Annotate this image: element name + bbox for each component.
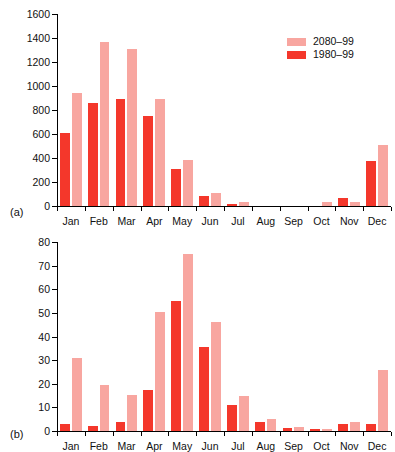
bar-feb-future	[100, 42, 110, 206]
x-tick-mark	[113, 432, 114, 436]
bar-jul-future	[239, 202, 249, 206]
x-tick-mark	[113, 207, 114, 211]
legend-label-1980-99: 1980–99	[313, 49, 354, 60]
y-tick-mark	[52, 158, 57, 159]
y-tick-label: 70	[38, 260, 50, 271]
x-tick-label: Jul	[231, 216, 244, 227]
x-tick-label: Jun	[202, 441, 219, 452]
legend-swatch-2080-99-icon	[287, 38, 306, 46]
bar-feb-past	[88, 103, 98, 206]
legend-swatch-1980-99-icon	[287, 51, 306, 59]
x-tick-label: Apr	[146, 441, 162, 452]
x-tick-mark	[391, 432, 392, 436]
x-tick-label: May	[172, 441, 192, 452]
y-tick-label: 600	[32, 129, 50, 140]
x-tick-label: Aug	[256, 216, 275, 227]
panel-b-plot-area: 01020304050607080 JanFebMarAprMayJunJulA…	[57, 242, 391, 432]
panel-b-y-axis-line	[57, 242, 58, 432]
bar-may-past	[171, 301, 181, 431]
x-tick-label: Nov	[340, 441, 359, 452]
x-tick-mark	[168, 207, 169, 211]
bar-mar-future	[127, 395, 137, 431]
bar-dec-future	[378, 145, 388, 206]
x-tick-mark	[308, 207, 309, 211]
bar-jan-future	[72, 358, 82, 431]
bar-oct-future	[322, 429, 332, 431]
panel-b-tag: (b)	[10, 428, 23, 440]
x-tick-label: Jul	[231, 441, 244, 452]
legend-item-future: 2080–99	[287, 35, 354, 48]
y-tick-mark	[52, 134, 57, 135]
y-tick-label: 30	[38, 355, 50, 366]
x-tick-mark	[57, 432, 58, 436]
x-tick-label: Jan	[62, 441, 79, 452]
x-tick-mark	[363, 207, 364, 211]
bar-jun-future	[211, 193, 221, 206]
y-tick-mark	[52, 182, 57, 183]
bar-may-future	[183, 160, 193, 206]
bar-apr-future	[155, 99, 165, 206]
x-tick-label: Apr	[146, 216, 162, 227]
bar-jan-future	[72, 93, 82, 206]
y-tick-mark	[52, 313, 57, 314]
bar-aug-future	[267, 419, 277, 431]
x-tick-mark	[391, 207, 392, 211]
panel-a-plot-area: 02004006008001000120014001600 JanFebMarA…	[57, 14, 391, 207]
y-tick-label: 1600	[27, 9, 50, 20]
bar-apr-past	[143, 116, 153, 206]
y-tick-label: 20	[38, 379, 50, 390]
y-tick-label: 60	[38, 284, 50, 295]
y-tick-mark	[52, 14, 57, 15]
x-tick-mark	[363, 432, 364, 436]
x-tick-mark	[252, 207, 253, 211]
x-tick-mark	[168, 432, 169, 436]
x-tick-mark	[335, 432, 336, 436]
y-tick-mark	[52, 86, 57, 87]
x-tick-label: Mar	[118, 216, 136, 227]
bar-aug-past	[255, 422, 265, 431]
x-tick-label: Jun	[202, 216, 219, 227]
panel-b-discharge: (b) Discharge (m3/s) 01020304050607080 J…	[0, 228, 395, 445]
bar-sep-past	[283, 428, 293, 431]
bar-mar-future	[127, 49, 137, 206]
x-tick-mark	[224, 432, 225, 436]
y-tick-label: 200	[32, 177, 50, 188]
y-tick-label: 1000	[27, 81, 50, 92]
bar-feb-future	[100, 385, 110, 431]
y-tick-label: 50	[38, 308, 50, 319]
bar-feb-past	[88, 426, 98, 431]
x-tick-mark	[141, 207, 142, 211]
x-tick-label: May	[172, 216, 192, 227]
x-tick-mark	[57, 207, 58, 211]
bar-dec-past	[366, 424, 376, 431]
x-tick-label: Oct	[313, 441, 329, 452]
y-tick-mark	[52, 384, 57, 385]
x-tick-mark	[196, 207, 197, 211]
bar-apr-past	[143, 390, 153, 431]
bar-dec-future	[378, 370, 388, 431]
x-tick-mark	[224, 207, 225, 211]
bar-oct-future	[322, 202, 332, 206]
bar-jun-future	[211, 322, 221, 431]
x-tick-label: Dec	[368, 441, 387, 452]
panel-a-y-axis-line	[57, 14, 58, 207]
bar-nov-past	[338, 198, 348, 206]
x-tick-mark	[308, 432, 309, 436]
y-tick-mark	[52, 407, 57, 408]
legend-label-2080-99: 2080–99	[313, 36, 354, 47]
panel-a-snowpack: (a) Snowpack (weq mm) 020040060080010001…	[0, 0, 395, 228]
legend: 2080–99 1980–99	[287, 35, 354, 61]
y-tick-label: 40	[38, 331, 50, 342]
bar-jan-past	[60, 133, 70, 206]
x-tick-mark	[85, 432, 86, 436]
x-tick-mark	[280, 432, 281, 436]
bar-mar-past	[116, 422, 126, 431]
bar-nov-future	[350, 422, 360, 431]
x-tick-mark	[335, 207, 336, 211]
x-tick-label: Nov	[340, 216, 359, 227]
y-tick-label: 1400	[27, 33, 50, 44]
y-tick-mark	[52, 38, 57, 39]
x-tick-label: Aug	[256, 441, 275, 452]
bar-jul-past	[227, 405, 237, 431]
y-tick-mark	[52, 266, 57, 267]
